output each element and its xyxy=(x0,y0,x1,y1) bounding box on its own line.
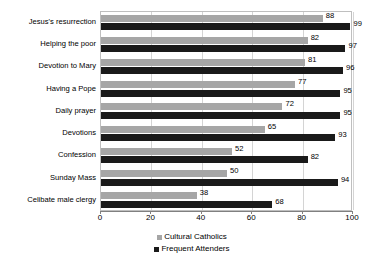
category-label: Jesus's resurrection xyxy=(0,11,96,33)
bar-frequent-attenders xyxy=(101,179,338,186)
bar-frequent-attenders xyxy=(101,23,350,30)
bar-frequent-attenders xyxy=(101,67,343,74)
bar-value-label: 38 xyxy=(200,188,208,197)
legend-label-cultural-catholics: Cultural Catholics xyxy=(164,231,227,243)
bar-value-label: 95 xyxy=(343,108,351,117)
category-label: Helping the poor xyxy=(0,33,96,55)
bar-cultural-catholics xyxy=(101,126,265,133)
bar-group: 8196 xyxy=(101,56,351,78)
bar-cultural-catholics xyxy=(101,59,305,66)
bar-value-label: 99 xyxy=(353,19,361,28)
bar-frequent-attenders xyxy=(101,90,340,97)
bar-cultural-catholics xyxy=(101,37,308,44)
bar-group: 7295 xyxy=(101,101,351,123)
x-tick-label: 40 xyxy=(181,213,221,222)
bar-group: 5094 xyxy=(101,168,351,190)
bar-value-label: 93 xyxy=(338,130,346,139)
legend-swatch-cultural-catholics xyxy=(157,235,162,240)
bar-value-label: 94 xyxy=(341,175,349,184)
bar-chart: 889982978196779572956593528250943868 Jes… xyxy=(0,0,384,267)
bar-frequent-attenders xyxy=(101,156,308,163)
bar-cultural-catholics xyxy=(101,192,197,199)
bar-value-label: 81 xyxy=(308,55,316,64)
category-label: Confession xyxy=(0,144,96,166)
bar-value-label: 82 xyxy=(311,152,319,161)
x-tick-label: 0 xyxy=(80,213,120,222)
bar-cultural-catholics xyxy=(101,15,323,22)
category-label: Daily prayer xyxy=(0,100,96,122)
bar-value-label: 65 xyxy=(268,122,276,131)
chart-legend: Cultural Catholics Frequent Attenders xyxy=(0,231,384,255)
bar-value-label: 72 xyxy=(285,99,293,108)
legend-swatch-frequent-attenders xyxy=(154,247,159,252)
bar-frequent-attenders xyxy=(101,201,272,208)
bar-group: 3868 xyxy=(101,190,351,212)
bar-value-label: 97 xyxy=(348,41,356,50)
bar-cultural-catholics xyxy=(101,103,282,110)
bar-group: 6593 xyxy=(101,123,351,145)
bar-value-label: 88 xyxy=(326,11,334,20)
legend-label-frequent-attenders: Frequent Attenders xyxy=(161,243,229,255)
x-tick-label: 100 xyxy=(332,213,372,222)
x-tick-label: 20 xyxy=(130,213,170,222)
x-axis-line xyxy=(100,211,353,212)
x-tick-label: 80 xyxy=(282,213,322,222)
bar-value-label: 95 xyxy=(343,86,351,95)
x-tick-label: 60 xyxy=(231,213,271,222)
category-label: Celibate male clergy xyxy=(0,189,96,211)
plot-area: 889982978196779572956593528250943868 xyxy=(100,11,352,211)
bar-cultural-catholics xyxy=(101,148,232,155)
bar-value-label: 96 xyxy=(346,63,354,72)
bar-group: 5282 xyxy=(101,145,351,167)
bar-cultural-catholics xyxy=(101,81,295,88)
bar-frequent-attenders xyxy=(101,112,340,119)
bar-group: 7795 xyxy=(101,79,351,101)
bar-group: 8899 xyxy=(101,12,351,34)
bar-group: 8297 xyxy=(101,34,351,56)
category-label: Devotion to Mary xyxy=(0,55,96,77)
bar-value-label: 52 xyxy=(235,144,243,153)
bar-value-label: 50 xyxy=(230,166,238,175)
category-label: Devotions xyxy=(0,122,96,144)
bar-value-label: 82 xyxy=(311,33,319,42)
bar-frequent-attenders xyxy=(101,45,345,52)
bar-cultural-catholics xyxy=(101,170,227,177)
legend-item-cultural-catholics[interactable]: Cultural Catholics xyxy=(0,231,384,243)
bar-frequent-attenders xyxy=(101,134,335,141)
bar-value-label: 68 xyxy=(275,197,283,206)
bar-value-label: 77 xyxy=(298,77,306,86)
category-label: Having a Pope xyxy=(0,78,96,100)
category-label: Sunday Mass xyxy=(0,167,96,189)
legend-item-frequent-attenders[interactable]: Frequent Attenders xyxy=(0,243,384,255)
